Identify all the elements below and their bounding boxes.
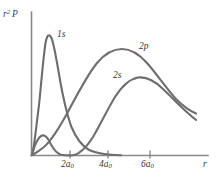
radial-distribution-chart: r2 P r 2a0 4a0 6a0 1s 2p 2s: [0, 0, 218, 177]
x-tick-label-6a0: 6a0: [141, 160, 154, 170]
x-tick-label-2a0: 2a0: [61, 160, 74, 170]
curve-2s: [32, 77, 196, 155]
x-tick-label-4a0: 4a0: [99, 160, 112, 170]
y-axis-label: r2 P: [3, 9, 18, 19]
curve-label-2s: 2s: [113, 71, 121, 81]
plot-canvas: [0, 0, 218, 177]
x-axis-label: r: [203, 160, 207, 170]
curve-label-2p: 2p: [139, 42, 149, 52]
curve-label-1s: 1s: [57, 30, 65, 40]
